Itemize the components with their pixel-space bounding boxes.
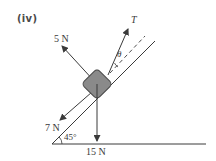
diagram-graphics: [0, 0, 216, 161]
part-label: (iv): [17, 13, 37, 24]
friction-force-label: 7 N: [45, 123, 60, 133]
tension-label: T: [131, 15, 137, 25]
incline-angle-arc: [59, 137, 62, 144]
weight-label: 15 N: [86, 147, 106, 157]
slope-reference-dashed-line: [110, 36, 145, 73]
incline-angle-label: 45°: [64, 133, 77, 142]
normal-force-label: 5 N: [54, 34, 69, 44]
theta-label: θ: [117, 50, 121, 59]
friction-force-arrow: [60, 92, 92, 120]
force-diagram: (iv) T 5 N θ 7 N 45° 15 N: [0, 0, 216, 161]
